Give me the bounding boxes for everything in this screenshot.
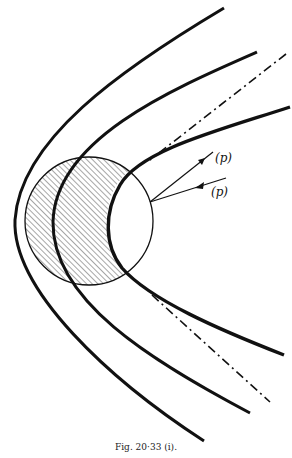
label-p-incoming: (p) xyxy=(211,185,228,199)
label-p-outgoing: (p) xyxy=(215,151,232,165)
arrowhead-outgoing-icon xyxy=(198,158,205,165)
arrowhead-incoming-icon xyxy=(195,182,204,189)
scattering-diagram: (p) (p) xyxy=(0,0,292,458)
asymptote-line xyxy=(150,54,286,402)
hatched-region xyxy=(25,157,160,285)
figure-caption: Fig. 20·33 (i). xyxy=(0,442,292,452)
